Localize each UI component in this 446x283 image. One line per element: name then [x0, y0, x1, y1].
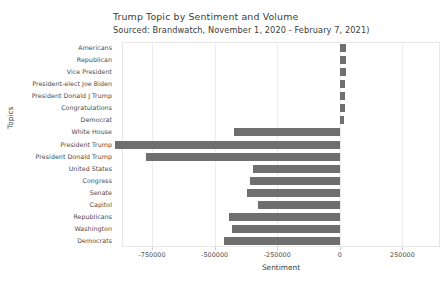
x-axis-tick-mark	[402, 247, 403, 250]
gridline	[402, 42, 403, 247]
y-axis-label: President Donald Trump	[36, 153, 112, 160]
title-block: Trump Topic by Sentiment and Volume Sour…	[113, 11, 433, 36]
x-axis-tick-mark	[340, 247, 341, 250]
bar	[340, 80, 346, 88]
x-axis-tick-mark	[152, 247, 153, 250]
y-axis-label: Washington	[74, 225, 112, 232]
bar	[340, 68, 346, 76]
y-axis-label: President Trump	[60, 141, 112, 148]
bar	[229, 213, 340, 221]
bar	[234, 128, 340, 136]
bar	[340, 44, 347, 52]
y-axis-label: President Donald J Trump	[32, 92, 112, 99]
bar	[115, 141, 340, 149]
y-axis-label: White House	[71, 128, 112, 135]
y-axis-tick-labels: AmericansRepublicanVice PresidentPreside…	[0, 42, 118, 247]
y-axis-label: Republican	[77, 56, 112, 63]
y-axis-label: President-elect Joe Biden	[32, 80, 112, 87]
x-axis-label: 250000	[390, 251, 415, 259]
y-axis-label: Democrat	[81, 116, 113, 123]
x-axis-label: 0	[338, 251, 342, 259]
y-axis-label: Americans	[78, 44, 112, 51]
bar	[340, 92, 345, 100]
y-axis-label: Democrats	[77, 237, 112, 244]
x-axis-tick-labels: -750000-500000-2500000250000	[0, 251, 446, 263]
bar	[340, 104, 345, 112]
bar	[253, 165, 340, 173]
x-axis-label: -750000	[139, 251, 166, 259]
y-axis-label: Capitol	[90, 201, 112, 208]
x-axis-tick-mark	[277, 247, 278, 250]
bar-chart-figure: Trump Topic by Sentiment and Volume Sour…	[0, 0, 446, 283]
y-axis-label: Republicans	[73, 213, 112, 220]
bar	[250, 177, 340, 185]
bar	[247, 189, 340, 197]
plot-area	[122, 42, 440, 247]
chart-subtitle: Sourced: Brandwatch, November 1, 2020 - …	[113, 24, 433, 36]
bar	[232, 225, 340, 233]
bar	[224, 237, 340, 245]
x-axis-title: Sentiment	[262, 263, 300, 272]
y-axis-label: United States	[69, 165, 112, 172]
y-axis-label: Congress	[82, 177, 112, 184]
bar	[258, 201, 340, 209]
y-axis-label: Senate	[90, 189, 112, 196]
y-axis-label: Congratulations	[61, 104, 112, 111]
bar	[340, 116, 345, 124]
x-axis-label: -250000	[264, 251, 291, 259]
y-axis-label: Vice President	[67, 68, 112, 75]
bar	[340, 56, 346, 64]
page-title: Trump Topic by Sentiment and Volume	[113, 11, 433, 23]
x-axis-tick-mark	[215, 247, 216, 250]
x-axis-label: -500000	[201, 251, 228, 259]
bar	[146, 153, 340, 161]
